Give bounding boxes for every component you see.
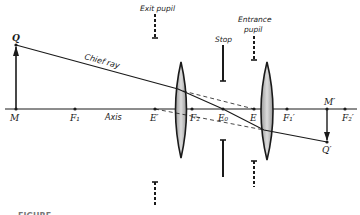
- label-m: M: [9, 113, 20, 123]
- label-e: E: [249, 113, 257, 123]
- point-e-prime: [153, 107, 156, 110]
- lens-2: [261, 62, 273, 160]
- label-m-prime: M′: [323, 97, 335, 107]
- label-entrance-pupil-2: pupil: [243, 25, 263, 34]
- figure-caption: FIGURE: [18, 212, 51, 215]
- label-f2-prime: F₂′: [341, 113, 354, 123]
- point-e: [252, 107, 255, 110]
- label-exit-pupil: Exit pupil: [140, 4, 176, 13]
- chief-ray: [16, 45, 327, 142]
- label-f1-prime: F₁′: [282, 113, 295, 123]
- lens-1: [176, 62, 187, 158]
- point-f1: [73, 107, 76, 110]
- dashed-ray-from-exit: [155, 109, 264, 130]
- entrance-pupil: [251, 36, 257, 187]
- label-e-prime: E′: [149, 113, 159, 123]
- point-q: [14, 43, 17, 46]
- point-f1-prime: [285, 107, 288, 110]
- label-axis: Axis: [104, 113, 122, 122]
- label-e0: E₀: [217, 113, 229, 123]
- point-f2-prime: [343, 107, 346, 110]
- label-stop: Stop: [215, 35, 232, 44]
- point-q-prime: [325, 140, 328, 143]
- optical-diagram: Q M F₁ Axis E′ F₂ E₀ E F₁′ M′ F₂′ Q′ Chi…: [0, 0, 360, 215]
- point-m: [14, 107, 17, 110]
- label-entrance-pupil-1: Entrance: [238, 15, 272, 24]
- label-f2: F₂: [189, 113, 200, 123]
- point-f2: [190, 107, 193, 110]
- point-e0: [221, 107, 224, 110]
- dashed-ray-to-entrance: [183, 91, 254, 109]
- object-arrow-head: [13, 46, 19, 56]
- label-f1: F₁: [69, 113, 80, 123]
- stop-aperture: [220, 45, 226, 177]
- label-q: Q: [12, 33, 20, 43]
- label-q-prime: Q′: [322, 145, 331, 155]
- label-chief-ray: Chief ray: [83, 52, 120, 70]
- point-m-prime: [325, 107, 328, 110]
- image-arrow-head: [324, 132, 330, 141]
